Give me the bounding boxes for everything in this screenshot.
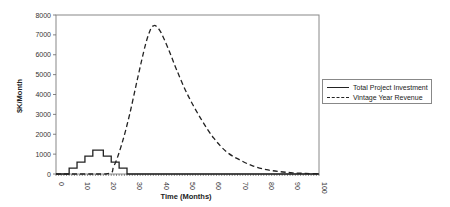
legend-label: Total Project Investment xyxy=(353,84,428,91)
x-axis: 0102030405060708090100 xyxy=(56,174,328,194)
x-tick-label: 70 xyxy=(242,182,249,190)
y-tick-label: 1000 xyxy=(35,151,51,158)
y-axis: 010002000300040005000600070008000 xyxy=(35,12,56,178)
y-tick-label: 7000 xyxy=(35,31,51,38)
y-tick-label: 0 xyxy=(47,171,51,178)
x-tick-label: 90 xyxy=(294,182,301,190)
x-tick-label: 80 xyxy=(268,182,275,190)
x-tick-label: 60 xyxy=(215,182,222,190)
y-tick-label: 8000 xyxy=(35,12,51,19)
legend: Total Project Investment Vintage Year Re… xyxy=(322,79,432,104)
solid-line-swatch-icon xyxy=(327,87,349,88)
y-axis-title: $K/Month xyxy=(15,79,24,114)
legend-item-revenue: Vintage Year Revenue xyxy=(327,92,423,103)
x-tick-label: 20 xyxy=(110,182,117,190)
x-tick-label: 30 xyxy=(136,182,143,190)
y-tick-label: 4000 xyxy=(35,91,51,98)
x-axis-title: Time (Months) xyxy=(160,192,212,201)
x-tick-label: 50 xyxy=(189,182,196,190)
x-tick-label: 10 xyxy=(84,182,91,190)
y-tick-label: 2000 xyxy=(35,131,51,138)
x-tick-label: 40 xyxy=(163,182,170,190)
dashed-line-swatch-icon xyxy=(327,97,349,98)
y-tick-label: 6000 xyxy=(35,51,51,58)
y-tick-label: 3000 xyxy=(35,111,51,118)
x-tick-label: 100 xyxy=(321,182,328,194)
x-tick-label: 0 xyxy=(58,182,65,186)
legend-label: Vintage Year Revenue xyxy=(353,94,423,101)
y-tick-label: 5000 xyxy=(35,71,51,78)
